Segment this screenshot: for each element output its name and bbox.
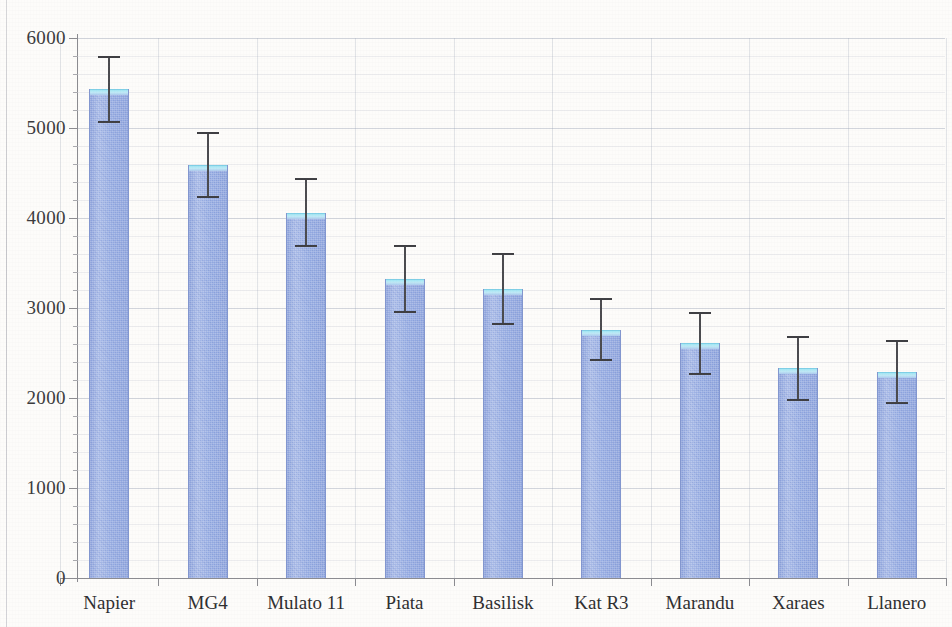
x-axis-tick xyxy=(946,578,947,586)
error-bar-cap-lower xyxy=(394,311,416,313)
y-axis-tick-minor xyxy=(73,290,78,291)
x-axis-category-label: Kat R3 xyxy=(552,592,650,614)
y-axis-tick-label: 3000 xyxy=(8,297,66,319)
gridline-vertical xyxy=(946,38,947,578)
error-bar-cap-upper xyxy=(787,336,809,338)
error-bar-cap-lower xyxy=(98,121,120,123)
y-axis-tick-minor xyxy=(73,326,78,327)
x-axis-tick xyxy=(355,578,356,586)
gridline-major xyxy=(78,38,945,39)
error-bar xyxy=(492,253,514,325)
x-axis-category-label: Basilisk xyxy=(454,592,552,614)
y-axis-tick-minor xyxy=(73,74,78,75)
x-axis-category-label: Napier xyxy=(60,592,158,614)
gridline-vertical xyxy=(848,38,849,578)
y-axis-tick-label: 2000 xyxy=(8,387,66,409)
gridline-minor xyxy=(78,74,945,75)
gridline-vertical xyxy=(158,38,159,578)
error-bar-stem xyxy=(404,245,406,313)
error-bar xyxy=(197,132,219,199)
x-axis-tick xyxy=(651,578,652,586)
x-axis-tick xyxy=(158,578,159,586)
x-axis-category-label: MG4 xyxy=(158,592,256,614)
y-axis-tick-minor xyxy=(73,416,78,417)
error-bar-stem xyxy=(600,298,602,361)
x-axis-category-label: Xaraes xyxy=(749,592,847,614)
error-bar-stem xyxy=(108,56,110,123)
x-axis-line xyxy=(60,578,946,579)
y-axis-tick-minor xyxy=(73,434,78,435)
gridline-major xyxy=(78,128,945,129)
y-axis-tick-label: 1000 xyxy=(8,477,66,499)
error-bar-cap-lower xyxy=(492,323,514,325)
x-axis-category-label: Piata xyxy=(355,592,453,614)
x-axis-category-label: Marandu xyxy=(651,592,749,614)
error-bar-cap-lower xyxy=(590,359,612,361)
error-bar xyxy=(394,245,416,313)
bar xyxy=(680,343,720,578)
gridline-minor xyxy=(78,110,945,111)
error-bar xyxy=(886,340,908,405)
error-bar-cap-lower xyxy=(197,196,219,198)
x-axis-category-label: Llanero xyxy=(848,592,946,614)
error-bar xyxy=(295,178,317,246)
y-axis-tick-minor xyxy=(73,560,78,561)
gridline-vertical xyxy=(355,38,356,578)
error-bar-cap-lower xyxy=(787,399,809,401)
y-axis-tick xyxy=(69,128,78,129)
y-axis-tick-minor xyxy=(73,200,78,201)
gridline-vertical xyxy=(749,38,750,578)
y-axis-tick xyxy=(69,38,78,39)
y-axis-tick-minor xyxy=(73,146,78,147)
error-bar xyxy=(787,336,809,401)
y-axis-tick-minor xyxy=(73,470,78,471)
gridline-vertical xyxy=(454,38,455,578)
error-bar xyxy=(590,298,612,361)
y-axis-tick-minor xyxy=(73,182,78,183)
y-axis-tick xyxy=(69,578,78,579)
error-bar xyxy=(98,56,120,123)
y-axis-tick-label: 0 xyxy=(8,567,66,589)
y-axis-tick-minor xyxy=(73,524,78,525)
error-bar-stem xyxy=(502,253,504,325)
y-axis-tick xyxy=(69,218,78,219)
gridline-minor xyxy=(78,92,945,93)
y-axis-tick xyxy=(69,488,78,489)
error-bar-cap-upper xyxy=(590,298,612,300)
error-bar-cap-upper xyxy=(98,56,120,58)
error-bar-cap-lower xyxy=(886,402,908,404)
bar xyxy=(385,279,425,578)
error-bar-stem xyxy=(896,340,898,405)
y-axis-tick-minor xyxy=(73,452,78,453)
error-bar-cap-upper xyxy=(886,340,908,342)
x-axis-tick xyxy=(257,578,258,586)
bar xyxy=(581,330,621,578)
error-bar xyxy=(689,312,711,375)
y-axis-tick-minor xyxy=(73,362,78,363)
bar xyxy=(188,165,228,578)
y-axis-tick-label: 6000 xyxy=(8,27,66,49)
error-bar-cap-upper xyxy=(492,253,514,255)
bar-chart: 0100020003000400050006000 NapierMG4Mulat… xyxy=(0,0,952,627)
y-axis-tick xyxy=(69,398,78,399)
error-bar-stem xyxy=(797,336,799,401)
y-axis-tick-minor xyxy=(73,506,78,507)
y-axis-tick-minor xyxy=(73,380,78,381)
error-bar-stem xyxy=(699,312,701,375)
gridline-minor xyxy=(78,56,945,57)
error-bar-cap-upper xyxy=(394,245,416,247)
y-axis-tick-minor xyxy=(73,254,78,255)
y-axis-tick-minor xyxy=(73,272,78,273)
y-axis-tick-minor xyxy=(73,344,78,345)
error-bar-cap-upper xyxy=(197,132,219,134)
gridline-vertical xyxy=(552,38,553,578)
bar xyxy=(483,289,523,578)
error-bar-stem xyxy=(207,132,209,199)
x-axis-category-label: Mulato 11 xyxy=(257,592,355,614)
y-axis-tick-minor xyxy=(73,542,78,543)
y-axis-tick-minor xyxy=(73,164,78,165)
y-axis-tick-minor xyxy=(73,92,78,93)
y-axis-tick-minor xyxy=(73,56,78,57)
y-axis-tick-label: 5000 xyxy=(8,117,66,139)
error-bar-cap-upper xyxy=(295,178,317,180)
